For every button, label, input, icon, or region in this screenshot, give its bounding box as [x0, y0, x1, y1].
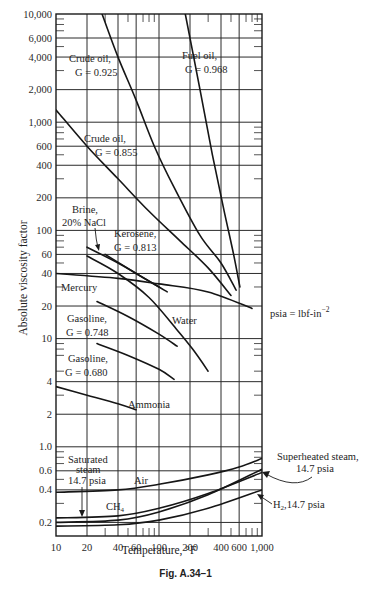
y-tick-label: 2,000 — [28, 84, 52, 95]
label-saturated-steam-3: 14.7 psia — [68, 475, 106, 486]
y-tick-label: 4,000 — [28, 52, 52, 63]
label-saturated-steam-2: steam — [76, 464, 101, 475]
label-ammonia: Ammonia — [128, 399, 170, 410]
curve-ammonia — [56, 387, 136, 410]
brine-arrowhead — [95, 244, 100, 251]
label-air: Air — [134, 475, 149, 486]
x-tick-label: 20 — [82, 542, 93, 553]
label-crude-oil-925-g: G = 0.925 — [75, 67, 117, 78]
y-tick-label: 100 — [36, 225, 52, 236]
label-kerosene: Kerosene, — [114, 228, 156, 239]
y-tick-label: 400 — [36, 160, 52, 171]
x-tick-label: 600 — [231, 542, 247, 553]
label-kerosene-g: G = 0.813 — [114, 242, 156, 253]
y-tick-label: 10 — [42, 333, 53, 344]
label-gasoline-680: Gasoline, — [68, 353, 108, 364]
label-brine: Brine, — [72, 204, 98, 215]
label-superheated-steam-2: 14.7 psia — [296, 463, 334, 474]
label-ch4: CH4 — [106, 501, 125, 514]
x-axis-title: Temperature, °F — [104, 544, 214, 556]
label-water: Water — [172, 315, 197, 326]
saturated-steam-arrowhead — [79, 510, 85, 517]
curve-crude-oil-g-0-855 — [56, 110, 231, 296]
y-tick-label: 10,000 — [23, 9, 52, 20]
y-tick-label: 0.2 — [39, 517, 52, 528]
label-gasoline-680-g: G = 0.680 — [65, 367, 107, 378]
y-tick-label: 4 — [47, 376, 53, 387]
x-tick-label: 400 — [213, 542, 229, 553]
label-fuel-oil: Fuel oil, — [182, 50, 217, 61]
y-tick-label: 60 — [42, 249, 53, 260]
x-tick-label: 1,000 — [250, 542, 274, 553]
label-fuel-oil-g: G = 0.968 — [185, 64, 227, 75]
curve-gasoline-g-0-680 — [97, 344, 174, 380]
y-tick-label: 20 — [42, 301, 53, 312]
label-gasoline-748: Gasoline, — [67, 313, 107, 324]
label-h2: H2,14.7 psia — [273, 499, 325, 512]
curve-gasoline-g-0-748 — [97, 302, 177, 347]
y-tick-label: 1.0 — [39, 441, 52, 452]
y-axis-title: Absolute viscosity factor — [17, 203, 29, 353]
label-crude-oil-925: Crude oil, — [69, 53, 111, 64]
label-mercury: Mercury — [61, 282, 98, 293]
figure-caption: Fig. A.34–1 — [0, 568, 371, 579]
h2-arrowhead — [257, 494, 264, 500]
label-superheated-steam: Superheated steam, — [277, 451, 359, 462]
superheated-leader — [266, 474, 312, 483]
y-tick-label: 6,000 — [28, 33, 52, 44]
viscosity-chart: 0.20.40.61.024102040601002004006001,0002… — [0, 0, 371, 594]
y-tick-label: 2 — [47, 409, 52, 420]
x-tick-label: 10 — [51, 542, 62, 553]
label-crude-oil-855-g: G = 0.855 — [95, 147, 137, 158]
superheated-arrowhead — [262, 471, 270, 478]
label-brine-nacl: 20% NaCl — [62, 217, 106, 228]
y-tick-label: 600 — [36, 141, 52, 152]
y-tick-label: 0.6 — [39, 465, 52, 476]
y-tick-label: 1,000 — [28, 117, 52, 128]
units-note: psia = lbf-in−2 — [270, 305, 330, 319]
label-gasoline-748-g: G = 0.748 — [66, 327, 108, 338]
y-tick-label: 200 — [36, 192, 52, 203]
y-tick-label: 0.4 — [39, 484, 53, 495]
label-crude-oil-855: Crude oil, — [84, 133, 126, 144]
y-tick-label: 40 — [42, 268, 53, 279]
